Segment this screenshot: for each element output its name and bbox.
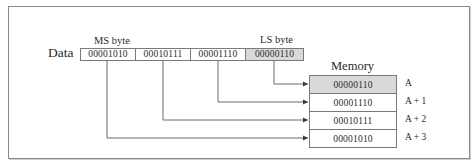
address-label-A: A [405,79,412,89]
ms-byte-label: MS byte [94,36,130,47]
data-byte-3: 00001110 [191,49,246,60]
memory-cell-A1: 00001110 [310,94,396,112]
data-byte-ms: 00001010 [81,49,136,60]
memory-title: Memory [331,60,374,73]
ls-byte-label: LS byte [260,35,293,46]
memory-block: 00000110 00001110 00010111 00001010 [309,75,397,148]
address-label-A2: A + 2 [405,115,426,125]
memory-cell-A3: 00001010 [310,130,396,147]
data-byte-ls: 00000110 [246,49,303,60]
address-label-A1: A + 1 [405,97,426,107]
memory-cell-A2: 00010111 [310,112,396,130]
address-label-A3: A + 3 [405,133,426,143]
arrow-byte3-to-A1 [218,60,308,102]
arrow-byte2-to-A2 [163,60,308,120]
data-label: Data [48,46,73,60]
arrow-byte4-to-A [274,60,308,84]
arrow-byte1-to-A3 [107,60,308,138]
memory-cell-A: 00000110 [310,76,396,94]
data-byte-2: 00010111 [136,49,191,60]
data-word: 00001010 00010111 00001110 00000110 [80,48,304,61]
